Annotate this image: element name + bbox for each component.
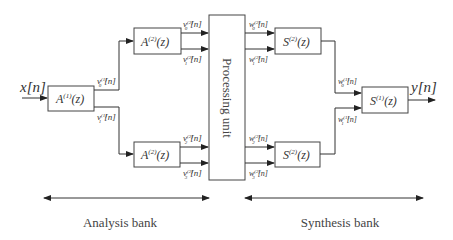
signal-v1-1: v(1)1[n]: [97, 112, 116, 124]
processing-unit-label: Processing unit: [220, 58, 235, 138]
signal-w0-2: w(2)0[n]: [249, 20, 268, 31]
signal-v1-2: v(2)1[n]: [183, 54, 202, 66]
signal-v0-1: v(1)0[n]: [97, 76, 116, 88]
analysis-block-a1: A(1)(z): [48, 86, 94, 111]
s2-bottom-label: S(2)(z): [283, 148, 310, 162]
synthesis-block-s2-top: S(2)(z): [275, 28, 321, 54]
filter-bank-diagram: x[n] A(1)(z) v(1)0[n] v(1)1[n] A(2)(z) v…: [0, 0, 453, 240]
input-label: x[n]: [19, 79, 46, 95]
s1-label: S(1)(z): [370, 94, 397, 108]
analysis-block-a2-bottom: A(2)(z): [134, 142, 180, 167]
signal-v3-2: v(2)3[n]: [183, 168, 202, 180]
input-signal: x[n]: [19, 79, 47, 98]
analysis-block-a2-top: A(2)(z): [134, 28, 181, 54]
synthesis-bank-label: Synthesis bank: [301, 215, 380, 230]
signal-w2-2: w(2)2[n]: [249, 134, 268, 145]
signal-v0-2: v(2)0[n]: [183, 19, 202, 31]
analysis-bank-label: Analysis bank: [83, 215, 158, 230]
signal-w1-1: w(1)1[n]: [338, 115, 357, 126]
signal-w1-2: w(2)1[n]: [249, 55, 268, 66]
signal-w3-2: w(2)3[n]: [249, 169, 268, 180]
processing-unit-block: Processing unit: [209, 15, 245, 180]
signal-w0-1: w(1)0[n]: [338, 77, 357, 88]
synthesis-block-s2-bottom: S(2)(z): [275, 142, 320, 167]
synthesis-block-s1: S(1)(z): [362, 87, 408, 113]
signal-v2-2: v(2)2[n]: [183, 133, 202, 145]
output-signal: y[n]: [408, 79, 437, 100]
s2-top-label: S(2)(z): [283, 35, 310, 49]
output-label: y[n]: [409, 79, 437, 95]
